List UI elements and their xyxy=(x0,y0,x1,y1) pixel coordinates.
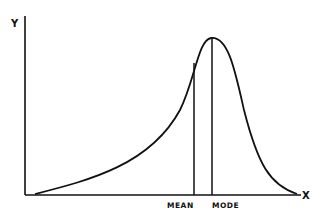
mode-label: MODE xyxy=(212,201,239,210)
mean-label: MEAN xyxy=(167,201,194,210)
skewed-distribution-diagram: Y X MEAN MODE xyxy=(0,0,328,219)
x-axis-label: X xyxy=(302,190,310,201)
y-axis-label: Y xyxy=(10,18,19,29)
distribution-curve xyxy=(35,38,297,194)
